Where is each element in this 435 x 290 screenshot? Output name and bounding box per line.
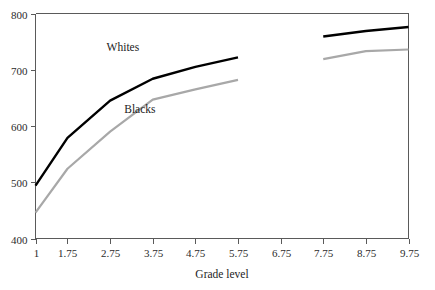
y-tick-label: 500 bbox=[11, 177, 28, 189]
line-chart: 400500600700800 11.752.753.754.755.756.7… bbox=[0, 0, 435, 290]
x-tick-label: 1 bbox=[34, 247, 40, 259]
x-tick-label: 1.75 bbox=[58, 247, 78, 259]
series-label-blacks: Blacks bbox=[124, 103, 156, 115]
series-label-whites: Whites bbox=[107, 41, 140, 53]
x-tick-label: 8.75 bbox=[357, 247, 377, 259]
x-axis-title: Grade level bbox=[195, 268, 248, 280]
x-tick-label: 3.75 bbox=[144, 247, 164, 259]
x-tick-label: 5.75 bbox=[229, 247, 249, 259]
y-tick-label: 600 bbox=[11, 121, 28, 133]
x-tick-label: 4.75 bbox=[186, 247, 206, 259]
x-tick-label: 7.75 bbox=[314, 247, 334, 259]
y-tick-label: 700 bbox=[11, 65, 28, 77]
chart-page: 400500600700800 11.752.753.754.755.756.7… bbox=[0, 0, 435, 290]
y-tick-label: 400 bbox=[11, 234, 28, 246]
x-tick-label: 2.75 bbox=[101, 247, 121, 259]
y-tick-label: 800 bbox=[11, 9, 28, 21]
x-tick-label: 9.75 bbox=[400, 247, 420, 259]
x-tick-label: 6.75 bbox=[272, 247, 292, 259]
